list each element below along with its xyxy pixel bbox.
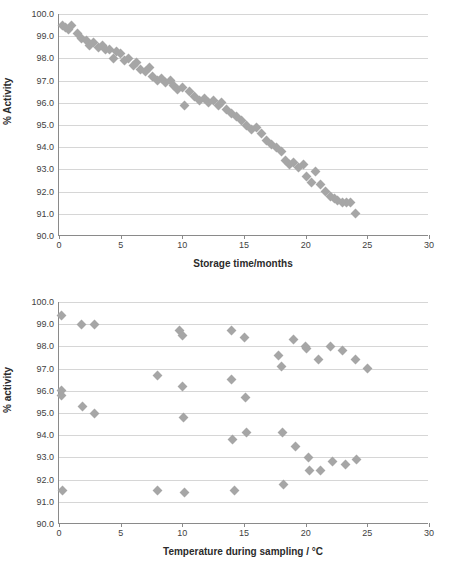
- x-tick-mark: [367, 235, 368, 239]
- data-point: [240, 393, 250, 403]
- gridline: [59, 302, 428, 303]
- y-tick-label: 90.0: [36, 519, 54, 529]
- gridline: [59, 457, 428, 458]
- plot-area-top: 90.091.092.093.094.095.096.097.098.099.0…: [58, 14, 428, 236]
- x-tick-mark: [59, 523, 60, 527]
- data-point: [180, 100, 190, 110]
- y-axis-title-bottom: % activity: [2, 367, 13, 413]
- data-point: [362, 364, 372, 374]
- data-point: [288, 335, 298, 345]
- x-tick-label: 25: [362, 240, 372, 250]
- y-tick-label: 92.0: [36, 187, 54, 197]
- data-point: [350, 209, 360, 219]
- x-tick-mark: [306, 235, 307, 239]
- data-point: [340, 459, 350, 469]
- data-point: [302, 344, 312, 354]
- data-point: [239, 333, 249, 343]
- data-point: [90, 319, 100, 329]
- gridline: [59, 413, 428, 414]
- data-point: [277, 428, 287, 438]
- x-axis-title-bottom: Temperature during sampling / °C: [58, 546, 428, 557]
- x-tick-label: 10: [177, 528, 187, 538]
- data-point: [351, 455, 361, 465]
- gridline: [59, 502, 428, 503]
- x-tick-mark: [306, 523, 307, 527]
- gridline: [59, 391, 428, 392]
- gridline: [59, 103, 428, 104]
- gridline: [59, 214, 428, 215]
- y-tick-label: 97.0: [36, 364, 54, 374]
- data-point: [76, 319, 86, 329]
- y-tick-label: 100.0: [31, 297, 54, 307]
- gridline: [59, 369, 428, 370]
- y-tick-label: 90.0: [36, 231, 54, 241]
- data-point: [77, 401, 87, 411]
- x-tick-label: 5: [118, 240, 123, 250]
- chart-temperature: % activity 90.091.092.093.094.095.096.09…: [0, 288, 456, 576]
- x-tick-mark: [244, 235, 245, 239]
- y-tick-label: 99.0: [36, 319, 54, 329]
- data-point: [58, 486, 68, 496]
- x-tick-label: 30: [424, 240, 434, 250]
- y-tick-label: 91.0: [36, 209, 54, 219]
- y-tick-label: 92.0: [36, 475, 54, 485]
- x-tick-mark: [182, 235, 183, 239]
- data-point: [274, 350, 284, 360]
- data-point: [325, 341, 335, 351]
- data-point: [180, 488, 190, 498]
- y-tick-label: 98.0: [36, 53, 54, 63]
- y-tick-label: 93.0: [36, 164, 54, 174]
- data-point: [153, 486, 163, 496]
- data-point: [276, 361, 286, 371]
- gridline: [59, 192, 428, 193]
- gridline: [59, 147, 428, 148]
- x-tick-mark: [244, 523, 245, 527]
- x-tick-label: 25: [362, 528, 372, 538]
- y-tick-label: 96.0: [36, 386, 54, 396]
- y-tick-label: 96.0: [36, 98, 54, 108]
- x-tick-label: 20: [301, 528, 311, 538]
- data-point: [316, 466, 326, 476]
- data-point: [311, 167, 321, 177]
- x-tick-label: 0: [56, 240, 61, 250]
- y-tick-label: 100.0: [31, 9, 54, 19]
- data-point: [313, 355, 323, 365]
- gridline: [59, 36, 428, 37]
- x-axis-title-top: Storage time/months: [58, 258, 428, 269]
- data-point: [304, 466, 314, 476]
- x-tick-label: 20: [301, 240, 311, 250]
- y-tick-label: 95.0: [36, 408, 54, 418]
- y-tick-label: 94.0: [36, 430, 54, 440]
- x-tick-label: 0: [56, 528, 61, 538]
- x-tick-mark: [59, 235, 60, 239]
- gridline: [59, 324, 428, 325]
- y-tick-label: 97.0: [36, 76, 54, 86]
- gridline: [59, 81, 428, 82]
- data-point: [291, 441, 301, 451]
- y-tick-label: 95.0: [36, 120, 54, 130]
- y-axis-title-top: % Activity: [2, 78, 13, 125]
- data-point: [90, 408, 100, 418]
- x-tick-mark: [121, 235, 122, 239]
- y-tick-label: 91.0: [36, 497, 54, 507]
- gridline: [59, 169, 428, 170]
- gridline: [59, 346, 428, 347]
- gridline: [59, 14, 428, 15]
- data-point: [153, 370, 163, 380]
- data-point: [229, 486, 239, 496]
- gridline: [59, 480, 428, 481]
- data-point: [303, 452, 313, 462]
- x-tick-mark: [367, 523, 368, 527]
- x-tick-label: 15: [239, 528, 249, 538]
- x-tick-label: 10: [177, 240, 187, 250]
- x-tick-label: 15: [239, 240, 249, 250]
- x-tick-mark: [429, 523, 430, 527]
- y-tick-label: 93.0: [36, 452, 54, 462]
- data-point: [227, 326, 237, 336]
- x-tick-label: 30: [424, 528, 434, 538]
- plot-area-bottom: 90.091.092.093.094.095.096.097.098.099.0…: [58, 302, 428, 524]
- y-tick-label: 94.0: [36, 142, 54, 152]
- x-tick-mark: [121, 523, 122, 527]
- y-tick-label: 98.0: [36, 341, 54, 351]
- plot-wrap-bottom: 90.091.092.093.094.095.096.097.098.099.0…: [58, 302, 428, 524]
